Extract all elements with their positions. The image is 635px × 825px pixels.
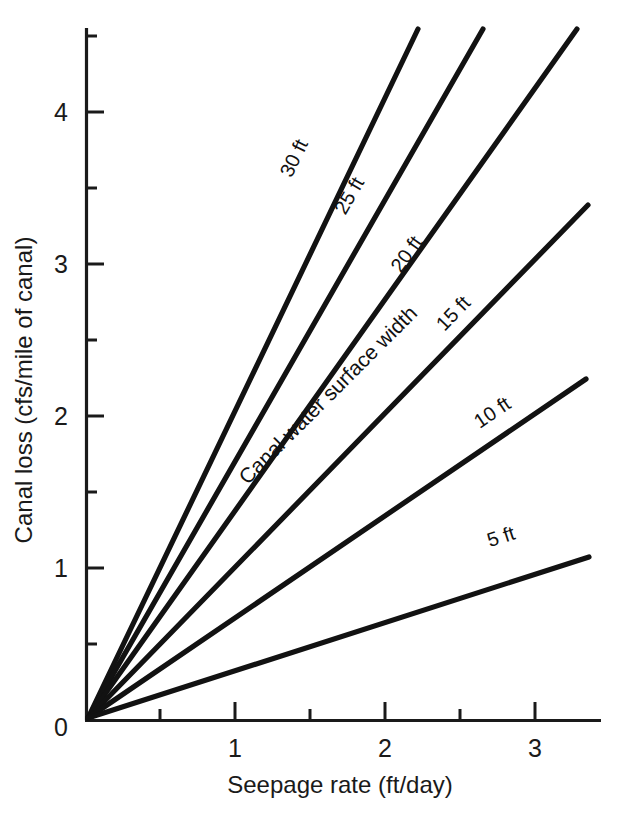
canal-width-annotation: Canal water surface width	[234, 301, 421, 488]
y-tick-label-0: 0	[54, 713, 68, 741]
x-axis-ticks	[160, 702, 535, 720]
y-axis-ticks	[86, 36, 104, 644]
x-tick-label-3: 3	[528, 734, 542, 762]
x-tick-label-2: 2	[378, 734, 392, 762]
chart-container: 0 1 2 3 4 1 2 3 Seepage rate (ft/day) Ca…	[0, 0, 635, 825]
series-line-10ft[interactable]	[88, 379, 586, 718]
y-tick-label-3: 3	[54, 250, 68, 278]
series-label-5ft: 5 ft	[484, 521, 518, 551]
y-tick-label-2: 2	[54, 402, 68, 430]
x-tick-label-1: 1	[228, 734, 242, 762]
seepage-canal-loss-chart: 0 1 2 3 4 1 2 3 Seepage rate (ft/day) Ca…	[0, 0, 635, 825]
y-tick-label-1: 1	[54, 554, 68, 582]
series-label-30ft: 30 ft	[275, 135, 312, 180]
y-axis-title: Canal loss (cfs/mile of canal)	[10, 237, 37, 544]
series-line-30ft[interactable]	[88, 29, 418, 718]
x-tick-labels: 1 2 3	[228, 734, 542, 762]
series-label-10ft: 10 ft	[470, 392, 515, 432]
series-label-25ft: 25 ft	[330, 173, 369, 218]
series-label-20ft: 20 ft	[386, 231, 427, 276]
y-tick-label-4: 4	[54, 98, 68, 126]
y-tick-labels: 0 1 2 3 4	[54, 98, 68, 741]
x-axis-title: Seepage rate (ft/day)	[227, 771, 452, 798]
